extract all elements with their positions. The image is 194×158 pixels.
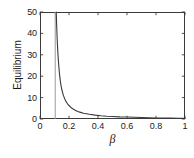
x-tick-label: 0	[37, 121, 42, 131]
tick-marks	[40, 12, 185, 119]
figure: Equilibrium 50 40 30 20 10 0 0 0.2 0.4 0…	[0, 0, 194, 158]
y-tick-label: 40	[14, 29, 37, 38]
plot-canvas	[40, 12, 185, 119]
x-tick-label: 0.4	[92, 121, 105, 131]
y-tick-label: 50	[14, 8, 37, 17]
x-axis-title: β	[40, 133, 185, 145]
y-tick-label: 20	[14, 72, 37, 81]
equilibrium-curve	[56, 12, 185, 118]
y-tick-label: 10	[14, 94, 37, 103]
x-tick-label: 0.2	[63, 121, 76, 131]
y-tick-label: 30	[14, 51, 37, 60]
x-tick-label: 1	[182, 121, 187, 131]
x-tick-label: 0.6	[121, 121, 134, 131]
x-tick-label: 0.8	[150, 121, 163, 131]
